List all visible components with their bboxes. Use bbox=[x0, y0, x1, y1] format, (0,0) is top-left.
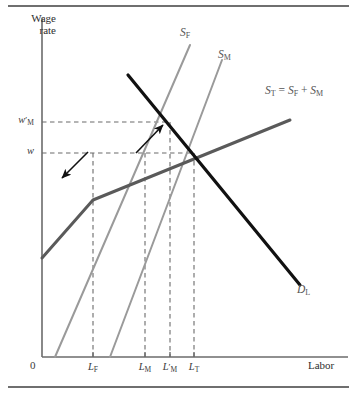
curve-label-sub: M bbox=[224, 53, 231, 62]
y-axis-title: Wage rate bbox=[12, 13, 56, 37]
arrow-down-left-icon bbox=[62, 152, 88, 178]
x-tick-label-L-F: LF bbox=[78, 361, 108, 374]
curve-supply-total bbox=[42, 120, 290, 258]
curve-label-supply-male: SM bbox=[218, 48, 231, 62]
curve-supply-male bbox=[110, 60, 222, 357]
x-tick-sub: T bbox=[195, 365, 200, 374]
curve-label-supply-total: ST = SF + SM bbox=[265, 84, 323, 98]
arrow-up-right-icon bbox=[136, 125, 163, 153]
curve-label-supply-female: SF bbox=[180, 26, 190, 40]
y-tick-base: w bbox=[27, 145, 34, 156]
curve-demand-labor bbox=[128, 75, 300, 285]
y-tick-label-w-prime-M: w′M bbox=[4, 114, 34, 127]
plot-canvas bbox=[0, 0, 357, 395]
curve-label-sub-3: M bbox=[316, 89, 323, 98]
vertical-guides bbox=[93, 122, 194, 357]
x-tick-sub: F bbox=[94, 365, 98, 374]
y-axis-title-line2: rate bbox=[12, 25, 56, 37]
x-axis-title: Labor bbox=[308, 360, 334, 372]
axis-lines bbox=[42, 18, 348, 357]
origin-label: 0 bbox=[30, 360, 36, 372]
x-tick-sub: M bbox=[171, 365, 178, 374]
y-tick-sub: M bbox=[27, 118, 34, 127]
curve-label-sub: F bbox=[186, 31, 190, 40]
curve-label-sub: L bbox=[305, 288, 310, 297]
supply-demand-figure: Wage rate Labor 0 w′M w LF LM L′M LT SF … bbox=[0, 0, 357, 395]
curve-label-demand-labor: DL bbox=[297, 283, 310, 297]
x-tick-sub: M bbox=[145, 365, 152, 374]
x-tick-label-L-T: LT bbox=[179, 361, 209, 374]
y-tick-label-w: w bbox=[4, 145, 34, 158]
